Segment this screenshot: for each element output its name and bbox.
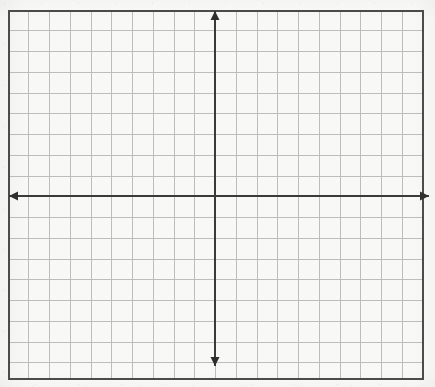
y-axis-arrow-down-icon: [211, 357, 220, 366]
graph-paper-figure: [0, 0, 435, 387]
y-axis-arrow-up-icon: [211, 11, 220, 20]
x-axis-arrow-right-icon: [420, 192, 429, 201]
axes-layer: [0, 0, 435, 387]
y-axis: [211, 11, 220, 366]
x-axis-arrow-left-icon: [9, 192, 18, 201]
x-axis: [9, 192, 429, 201]
